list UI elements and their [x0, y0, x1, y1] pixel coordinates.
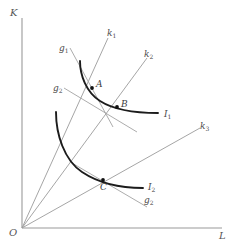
ray-label-k2: k2 — [144, 50, 153, 59]
point-label-A: A — [96, 80, 103, 89]
axis-label-K: K — [10, 8, 17, 18]
budget-label-g2-upper-sub: 2 — [59, 87, 63, 94]
isoquant-diagram: K L O k1 k2 k3 g1 g2 g2 I1 I2 A B C — [0, 0, 239, 246]
ray-label-k2-sub: 2 — [149, 53, 153, 60]
isoquant-label-I1-sub: 1 — [168, 113, 172, 120]
isoquant-label-I1: I1 — [164, 110, 171, 119]
budget-label-g1-sub: 1 — [65, 47, 69, 54]
ray-label-k1: k1 — [107, 29, 116, 38]
budget-label-g2-upper: g2 — [53, 84, 63, 93]
isoquant-label-I2: I2 — [148, 183, 155, 192]
ray-group — [22, 38, 200, 228]
axis-label-origin: O — [9, 228, 17, 238]
ray-label-k3: k3 — [200, 122, 209, 131]
budget-label-g2-upper-base: g — [53, 83, 59, 93]
budget-label-g2-lower-sub: 2 — [150, 199, 154, 206]
budget-label-g2-lower: g2 — [144, 196, 154, 205]
budget-label-g2-lower-base: g — [144, 195, 150, 205]
budget-label-g1: g1 — [59, 44, 69, 53]
ray-label-k3-sub: 3 — [205, 125, 209, 132]
budget-label-g1-base: g — [59, 43, 65, 53]
point-label-C: C — [100, 183, 107, 192]
axis-label-L: L — [219, 231, 226, 241]
isoquant-label-I2-sub: 2 — [152, 186, 156, 193]
ray-k1 — [22, 38, 108, 228]
ray-label-k1-sub: 1 — [112, 32, 116, 39]
point-label-B: B — [121, 100, 128, 109]
point-B-marker — [115, 105, 119, 109]
ray-k3 — [22, 128, 200, 228]
point-A-marker — [90, 86, 94, 90]
